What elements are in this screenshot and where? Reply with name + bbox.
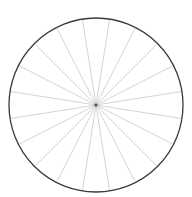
- spoke-line: [96, 105, 158, 167]
- spoke-line: [34, 105, 96, 167]
- wheel-figure: [0, 0, 192, 197]
- spoked-circle-diagram: [0, 0, 192, 197]
- spoke-line: [34, 43, 96, 105]
- spoke-line: [96, 43, 158, 105]
- center-dot: [94, 103, 97, 106]
